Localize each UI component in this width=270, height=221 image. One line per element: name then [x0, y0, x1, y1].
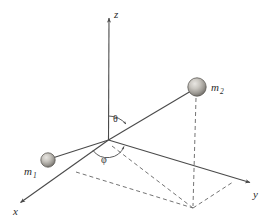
plane-dashed-diagonal-from-origin [112, 146, 193, 208]
x-axis-label: x [12, 205, 18, 217]
phi-label: φ [101, 154, 107, 165]
m2-label-base: m [211, 81, 219, 93]
z-axis [109, 18, 110, 140]
mass-m1-label: m 1 [24, 165, 37, 180]
coordinate-system-diagram: z y x θ φ m 2 m 1 [0, 0, 270, 221]
mass-m2-label: m 2 [211, 81, 224, 96]
theta-label: θ [113, 113, 118, 124]
y-axis [109, 140, 251, 183]
plane-dashed-edge-right [193, 182, 233, 208]
m2-vertical-projection-dashed [193, 98, 196, 206]
xy-plane-projection-lines [76, 146, 233, 208]
radius-vector-m2 [109, 91, 192, 140]
mass-m1-sphere [41, 153, 55, 167]
z-axis-label: z [113, 8, 119, 20]
m2-label-subscript: 2 [220, 87, 224, 96]
figure-container: z y x θ φ m 2 m 1 [0, 0, 270, 221]
mass-m2-sphere [188, 78, 206, 96]
plane-dashed-edge-left [76, 172, 193, 208]
m1-label-subscript: 1 [33, 171, 37, 180]
m1-label-base: m [24, 165, 32, 177]
y-axis-label: y [252, 188, 258, 200]
